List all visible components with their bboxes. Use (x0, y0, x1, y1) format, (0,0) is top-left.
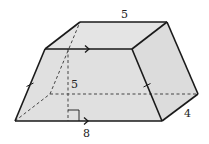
bottom-edge-label: 8 (83, 127, 90, 140)
depth-label: 4 (184, 107, 191, 120)
trapezoidal-prism-diagram: 5 5 8 4 (0, 0, 209, 144)
height-label: 5 (71, 78, 78, 91)
top-edge-label: 5 (121, 8, 128, 21)
